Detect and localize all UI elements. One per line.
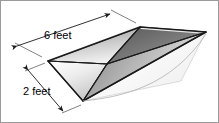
dimension-label-2-feet: 2 feet: [23, 85, 51, 97]
ext-line-6ft-far: [111, 10, 136, 23]
ext-line-2ft-far: [62, 105, 81, 113]
geometry-figure: 6 feet 2 feet: [0, 0, 219, 123]
dimension-label-6-feet: 6 feet: [44, 29, 72, 41]
pyramid-diagram-svg: 6 feet 2 feet: [1, 1, 219, 123]
ext-line-2ft-near: [25, 63, 45, 71]
